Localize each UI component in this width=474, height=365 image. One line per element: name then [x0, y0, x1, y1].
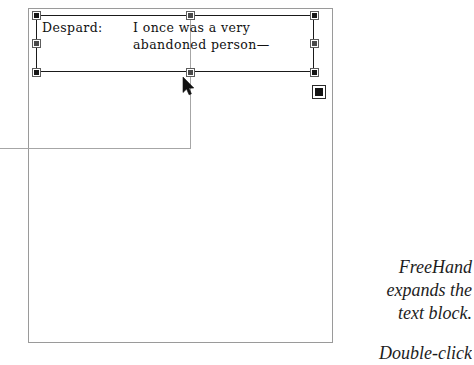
handle-top-right[interactable]	[311, 12, 318, 19]
handle-middle-right[interactable]	[311, 40, 318, 47]
handle-bottom-left[interactable]	[33, 69, 40, 76]
caption-line-3: text block.	[342, 302, 472, 325]
caption-line-2: expands the	[342, 279, 472, 302]
text-block[interactable]: Despard: I once was a very abandoned per…	[36, 15, 314, 72]
text-block-line-2: abandoned person—	[133, 37, 270, 53]
text-block-link-box[interactable]	[312, 85, 326, 99]
text-block-line-1: I once was a very	[133, 20, 250, 36]
handle-top-center[interactable]	[187, 12, 194, 19]
caption-next-paragraph: Double-click	[342, 342, 472, 365]
text-block-speaker: Despard:	[42, 20, 103, 36]
caption-text: FreeHand expands the text block.	[342, 256, 472, 325]
drag-guide-horizontal	[0, 148, 191, 149]
arrow-pointer-icon	[182, 77, 196, 97]
handle-top-left[interactable]	[33, 12, 40, 19]
handle-bottom-center[interactable]	[187, 69, 194, 76]
caption-next-line: Double-click	[342, 342, 472, 365]
handle-bottom-right[interactable]	[311, 69, 318, 76]
link-box-fill-icon	[315, 88, 323, 96]
handle-middle-left[interactable]	[33, 40, 40, 47]
caption-line-1: FreeHand	[342, 256, 472, 279]
